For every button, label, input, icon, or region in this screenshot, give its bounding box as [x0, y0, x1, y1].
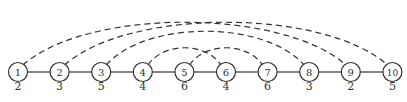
dashed-arc — [65, 22, 388, 65]
node-7: 7 — [258, 63, 277, 82]
node-3: 3 — [92, 63, 111, 82]
node-10: 10 — [383, 63, 402, 82]
node-9: 9 — [341, 63, 360, 82]
dashed-arc — [106, 31, 304, 65]
svg-text:7: 7 — [264, 67, 270, 78]
svg-text:2: 2 — [56, 67, 62, 78]
node-2: 2 — [50, 63, 69, 82]
node-weight: 3 — [299, 80, 319, 93]
svg-text:10: 10 — [387, 68, 399, 78]
node-weight: 4 — [216, 80, 236, 93]
svg-text:8: 8 — [306, 67, 312, 78]
svg-text:9: 9 — [348, 67, 354, 78]
node-weight: 2 — [341, 80, 361, 93]
node-weight: 3 — [50, 80, 70, 93]
node-8: 8 — [300, 63, 319, 82]
node-weight: 5 — [91, 80, 111, 93]
node-4: 4 — [133, 63, 152, 82]
node-1: 1 — [9, 63, 28, 82]
svg-text:4: 4 — [140, 67, 146, 78]
node-6: 6 — [217, 63, 236, 82]
node-weight: 4 — [133, 80, 153, 93]
node-5: 5 — [175, 63, 194, 82]
svg-text:1: 1 — [15, 67, 21, 78]
node-weight: 2 — [8, 80, 28, 93]
svg-text:3: 3 — [98, 67, 104, 78]
svg-text:6: 6 — [223, 67, 229, 78]
node-weight: 6 — [174, 80, 194, 93]
node-weight: 6 — [258, 80, 278, 93]
node-weight: 5 — [382, 80, 402, 93]
svg-text:5: 5 — [181, 67, 187, 78]
